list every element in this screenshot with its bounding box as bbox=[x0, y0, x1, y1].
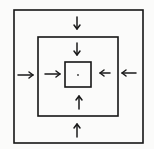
diagram-svg bbox=[0, 0, 154, 149]
middle-right-arrow-icon bbox=[100, 70, 110, 76]
outer-right-arrow-icon bbox=[122, 70, 136, 76]
outer-top-arrow-icon bbox=[74, 17, 80, 29]
middle-top-arrow-icon bbox=[74, 43, 80, 55]
outer-bottom-arrow-icon bbox=[74, 124, 80, 137]
middle-left-arrow-icon bbox=[45, 71, 60, 77]
outer-square bbox=[14, 10, 143, 143]
middle-bottom-arrow-icon bbox=[76, 96, 82, 109]
squares-layer bbox=[14, 10, 143, 143]
center-dot bbox=[77, 74, 79, 76]
nested-squares-diagram bbox=[0, 0, 154, 149]
middle-square bbox=[38, 37, 118, 116]
outer-left-arrow-icon bbox=[18, 72, 33, 78]
